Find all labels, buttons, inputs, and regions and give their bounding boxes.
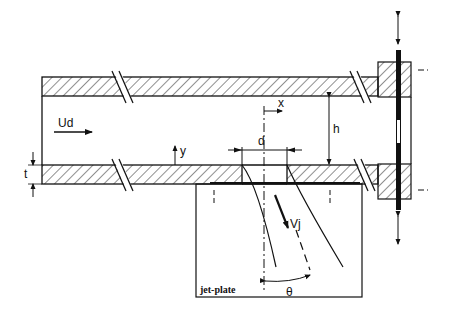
angle-label: θ <box>286 285 293 299</box>
jet-plate <box>196 183 362 297</box>
thickness-label: t <box>24 167 28 181</box>
diameter-label: d <box>258 134 265 148</box>
top-wall <box>42 77 378 96</box>
jet-velocity-label: Vj <box>290 217 301 231</box>
jet-velocity-arrow <box>275 195 288 228</box>
jet-plate-label: jet-plate <box>199 284 236 295</box>
bottom-wall <box>42 165 378 184</box>
x-axis-label: x <box>278 96 284 110</box>
y-axis-label: y <box>180 144 186 158</box>
channel-diagram: Vj θ d h x y Ud t jet-plate <box>0 0 449 316</box>
right-flange <box>378 16 430 244</box>
height-label: h <box>333 122 340 136</box>
crossflow-label: Ud <box>58 116 73 130</box>
angle-arc <box>265 275 310 281</box>
